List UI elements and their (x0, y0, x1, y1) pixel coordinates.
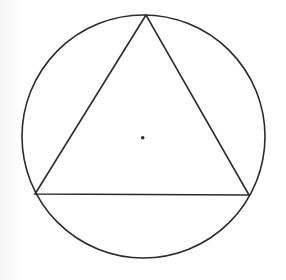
inscribed-triangle-diagram (0, 0, 286, 280)
center-point (141, 136, 145, 140)
diagram-canvas (0, 0, 286, 280)
